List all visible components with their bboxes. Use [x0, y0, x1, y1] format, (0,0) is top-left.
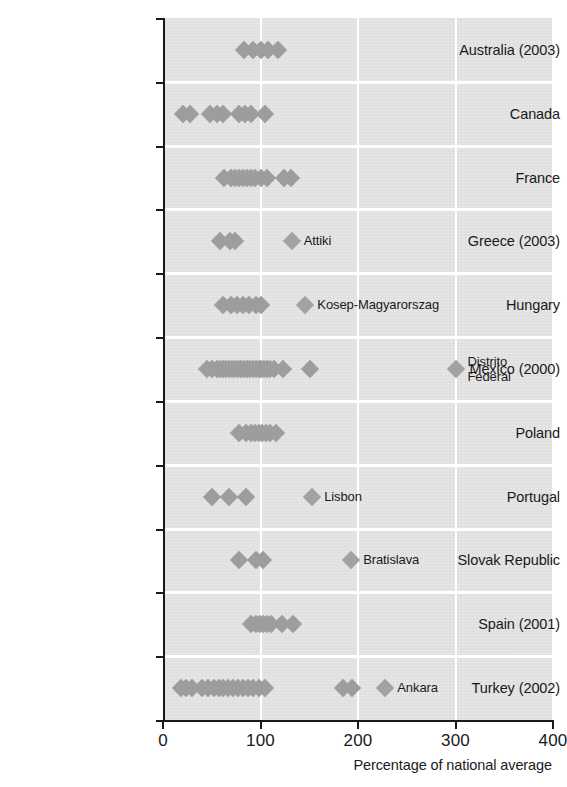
row-separator — [165, 336, 554, 339]
y-axis-tick — [156, 209, 164, 211]
gridline-vertical — [357, 18, 359, 720]
data-point-labeled — [303, 487, 321, 505]
row-separator — [165, 208, 554, 211]
data-point — [301, 360, 319, 378]
data-point — [203, 487, 221, 505]
data-point-labeled — [296, 296, 314, 314]
x-axis-tick — [552, 722, 554, 729]
data-point — [230, 551, 248, 569]
x-axis-tick — [357, 722, 359, 729]
row-separator — [165, 272, 554, 275]
row-separator — [165, 591, 554, 594]
category-label: Australia (2003) — [410, 42, 560, 58]
category-label: Greece (2003) — [410, 233, 560, 249]
row-separator — [165, 528, 554, 531]
x-axis-title: Percentage of national average — [353, 757, 552, 773]
y-axis-tick — [156, 146, 164, 148]
row-separator — [165, 464, 554, 467]
x-axis-tick — [455, 722, 457, 729]
data-point-labeled — [282, 232, 300, 250]
data-point — [283, 615, 301, 633]
category-label: Hungary — [410, 297, 560, 313]
y-axis-line — [163, 18, 165, 722]
y-axis-tick — [156, 401, 164, 403]
category-label: Slovak Republic — [410, 552, 560, 568]
category-label: France — [410, 170, 560, 186]
y-axis-tick — [156, 18, 164, 20]
data-point-label: Lisbon — [324, 489, 362, 504]
category-label: Portugal — [410, 489, 560, 505]
data-point-labeled — [376, 679, 394, 697]
x-tick-label: 100 — [246, 731, 275, 751]
category-label: Poland — [410, 425, 560, 441]
row-separator — [165, 81, 554, 84]
y-axis-tick — [156, 273, 164, 275]
y-axis-tick — [156, 82, 164, 84]
x-axis-tick — [162, 722, 164, 729]
category-label: Canada — [410, 106, 560, 122]
data-point — [237, 487, 255, 505]
row-separator — [165, 400, 554, 403]
row-separator — [165, 655, 554, 658]
x-axis-tick — [260, 722, 262, 729]
y-axis-tick — [156, 465, 164, 467]
data-point-label: Attiki — [304, 234, 332, 249]
x-tick-label: 200 — [344, 731, 373, 751]
y-axis-tick — [156, 592, 164, 594]
x-tick-label: 400 — [539, 731, 567, 751]
category-label: Spain (2001) — [410, 616, 560, 632]
y-axis-tick — [156, 529, 164, 531]
x-tick-label: 0 — [158, 731, 168, 751]
category-label: Turkey (2002) — [410, 680, 560, 696]
x-tick-label: 300 — [441, 731, 470, 751]
y-axis-tick — [156, 656, 164, 658]
category-label: Mexico (2000) — [410, 361, 560, 377]
row-separator — [165, 145, 554, 148]
y-axis-tick — [156, 337, 164, 339]
